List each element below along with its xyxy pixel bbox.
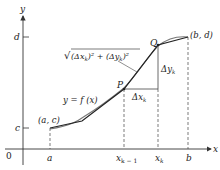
point-P <box>123 88 126 91</box>
P-label: P <box>116 80 124 90</box>
x-tick-b-label: b <box>186 153 192 163</box>
y-axis-label: y <box>19 4 26 14</box>
x-axis-label: x <box>213 144 218 154</box>
end-point-label: (b, d) <box>190 30 213 40</box>
segment-length-label: √ (Δxk)² + (Δyk)² <box>64 49 140 62</box>
delta-y-label: Δyk <box>160 64 176 75</box>
arc-length-diagram: y x 0 d c a xk − 1 xk b (a, c) (b, d) P … <box>0 0 220 170</box>
curve-label: y = f (x) <box>62 95 98 105</box>
x-tick-a-label: a <box>47 153 52 163</box>
x-tick-xk-label: xk <box>155 153 164 164</box>
Q-label: Q <box>150 38 158 48</box>
origin-label: 0 <box>6 151 12 161</box>
start-point-label: (a, c) <box>38 115 60 125</box>
leader-line <box>118 61 137 72</box>
y-tick-d-label: d <box>14 32 20 42</box>
svg-text:(Δxk)² + (Δyk)²: (Δxk)² + (Δyk)² <box>71 52 129 62</box>
delta-x-label: Δxk <box>131 92 147 103</box>
svg-text:√: √ <box>64 50 71 61</box>
y-tick-c-label: c <box>15 123 20 133</box>
x-tick-xk-1-label: xk − 1 <box>116 153 137 164</box>
